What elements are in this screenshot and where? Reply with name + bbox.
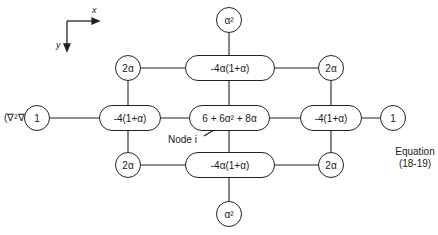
node-bottom-far: α² xyxy=(216,201,242,227)
node-top-left-corner: 2α xyxy=(115,55,141,81)
equation-reference: Equation (18-19) xyxy=(392,146,438,170)
node-mid-far-right: 1 xyxy=(380,105,406,131)
node-bottom-left-corner: 2α xyxy=(115,152,141,178)
node-mid-far-left: 1 xyxy=(24,105,50,131)
y-axis-label: y xyxy=(56,40,61,50)
equation-number: (18-19) xyxy=(392,158,438,170)
node-mid-left: -4(1+α) xyxy=(99,105,161,131)
node-top-center: -4α(1+α) xyxy=(185,55,275,81)
equation-label: Equation xyxy=(392,146,438,158)
x-axis-label: x xyxy=(92,5,97,15)
node-i-label: Node i xyxy=(168,134,197,145)
node-top-right-corner: 2α xyxy=(318,55,344,81)
node-bottom-right-corner: 2α xyxy=(318,152,344,178)
node-center: 6 + 6α² + 8α xyxy=(189,105,270,131)
node-bottom-center: -4α(1+α) xyxy=(185,152,275,178)
node-mid-right: -4(1+α) xyxy=(300,105,362,131)
node-top-far: α² xyxy=(216,7,242,33)
